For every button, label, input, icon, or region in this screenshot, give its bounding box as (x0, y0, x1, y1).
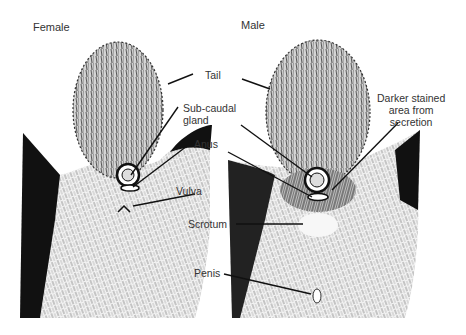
male-scrotum (298, 213, 338, 237)
label-vulva: Vulva (176, 185, 202, 197)
label-darker-stained-area: Darker stained area from secretion (377, 92, 445, 128)
label-stain-line1: Darker stained (377, 92, 445, 104)
label-scrotum: Scrotum (188, 218, 227, 230)
leader-tail-female (168, 74, 193, 84)
label-stain-line2: area from (377, 104, 445, 116)
male-penis (313, 289, 321, 303)
diagram-canvas (0, 0, 466, 335)
label-penis: Penis (194, 267, 220, 279)
female-anus (121, 185, 139, 191)
label-subcaudal-line2: gland (183, 114, 236, 126)
male-illustration (228, 40, 420, 318)
label-anus: Anus (194, 138, 218, 150)
male-title: Male (241, 19, 265, 31)
female-illustration (20, 42, 212, 318)
female-title: Female (33, 21, 70, 33)
leader-tail-male (242, 79, 270, 89)
label-tail: Tail (205, 69, 221, 81)
label-subcaudal-line1: Sub-caudal (183, 102, 236, 114)
label-stain-line3: secretion (377, 116, 445, 128)
label-subcaudal-gland: Sub-caudal gland (183, 102, 236, 126)
